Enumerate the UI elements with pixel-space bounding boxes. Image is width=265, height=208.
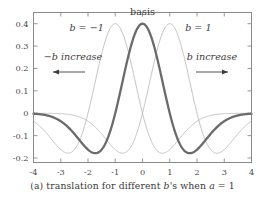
right-curve-label: b = 1 xyxy=(185,22,211,33)
y-tick-label: 0 xyxy=(23,108,28,118)
b-increase-label: b increase xyxy=(187,51,238,62)
wavelet-translation-figure: 0.40.30.20.10-0.1-0.2 -4-3-2-101234 basi… xyxy=(0,0,265,208)
x-tick-label: 1 xyxy=(167,167,172,177)
caption-prefix: (a) translation for different xyxy=(30,180,163,191)
axis-tick-marks xyxy=(34,13,252,163)
figure-caption: (a) translation for different b's when a… xyxy=(0,180,265,191)
x-tick-label: 3 xyxy=(222,167,227,177)
x-axis-tick-labels: -4-3-2-101234 xyxy=(30,167,255,177)
y-tick-label: 0.3 xyxy=(15,41,28,51)
chart-svg: 0.40.30.20.10-0.1-0.2 -4-3-2-101234 basi… xyxy=(0,0,265,180)
curve-b-positive-1 xyxy=(34,24,252,154)
plot-frame xyxy=(34,13,252,163)
basis-label: basis xyxy=(130,6,155,17)
y-tick-label: 0.4 xyxy=(15,19,28,29)
plot-area: 0.40.30.20.10-0.1-0.2 -4-3-2-101234 basi… xyxy=(0,0,265,180)
curve-basis xyxy=(34,24,252,154)
curve-b-negative-1 xyxy=(34,24,252,154)
x-tick-label: -2 xyxy=(84,167,92,177)
left-curve-label: b = −1 xyxy=(69,22,103,33)
curve-group xyxy=(34,24,252,154)
x-tick-label: -3 xyxy=(57,167,65,177)
caption-suffix: = 1 xyxy=(215,180,235,191)
caption-mid: 's when xyxy=(170,180,209,191)
y-tick-label: 0.1 xyxy=(15,86,28,96)
x-tick-label: -1 xyxy=(111,167,119,177)
minus-b-increase-label: −b increase xyxy=(44,51,103,62)
left-arrow-icon xyxy=(53,70,85,75)
x-tick-label: 4 xyxy=(249,167,254,177)
y-axis-tick-labels: 0.40.30.20.10-0.1-0.2 xyxy=(13,19,29,163)
y-tick-label: -0.1 xyxy=(13,131,29,141)
x-tick-label: -4 xyxy=(30,167,38,177)
x-tick-label: 0 xyxy=(140,167,145,177)
x-tick-label: 2 xyxy=(194,167,199,177)
y-tick-label: -0.2 xyxy=(13,153,29,163)
right-arrow-icon xyxy=(196,70,228,75)
y-tick-label: 0.2 xyxy=(15,63,28,73)
